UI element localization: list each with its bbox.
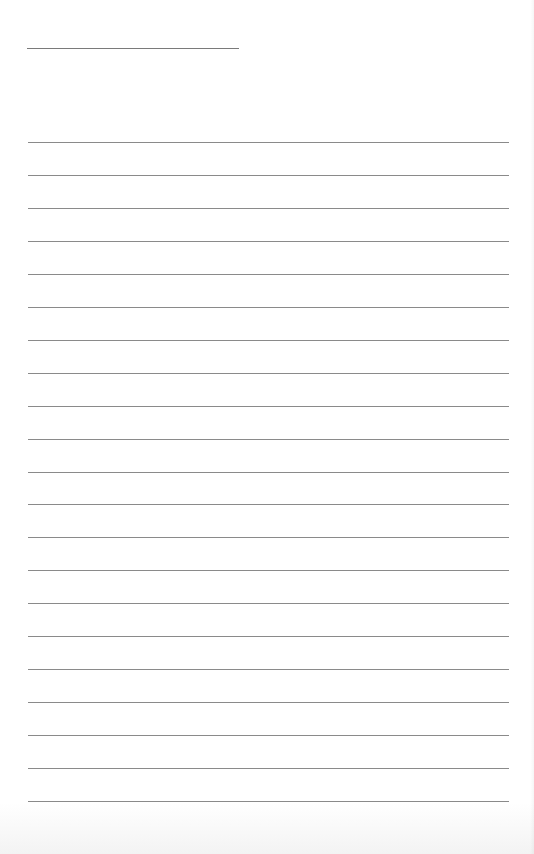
lined-paper-page xyxy=(0,0,534,854)
page-edge-shadow xyxy=(530,0,534,854)
ruled-line xyxy=(28,702,509,703)
ruled-line xyxy=(28,472,509,473)
ruled-line xyxy=(28,537,509,538)
ruled-line xyxy=(28,504,509,505)
ruled-line xyxy=(28,669,509,670)
ruled-line xyxy=(28,241,509,242)
ruled-line xyxy=(28,142,509,143)
ruled-line xyxy=(28,175,509,176)
ruled-line xyxy=(28,406,509,407)
ruled-line xyxy=(28,439,509,440)
ruled-line xyxy=(28,636,509,637)
ruled-line xyxy=(28,340,509,341)
ruled-line xyxy=(28,274,509,275)
title-underline xyxy=(27,48,239,49)
ruled-line xyxy=(28,801,509,802)
ruled-line xyxy=(28,768,509,769)
ruled-line xyxy=(28,603,509,604)
ruled-line xyxy=(28,570,509,571)
ruled-line xyxy=(28,307,509,308)
ruled-line xyxy=(28,373,509,374)
ruled-line xyxy=(28,735,509,736)
ruled-line xyxy=(28,208,509,209)
